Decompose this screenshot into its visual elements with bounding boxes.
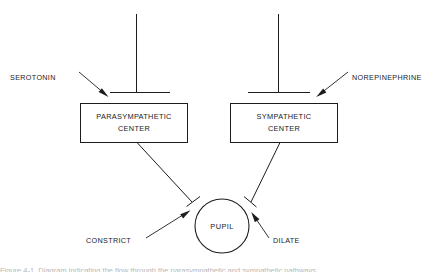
serotonin-arrow-group [79,72,109,97]
sympathetic-center-label-line1: SYMPATHETIC [257,112,312,121]
constrict-label: CONSTRICT [86,236,131,245]
sympathetic-center-box[interactable]: SYMPATHETIC CENTER [231,104,338,143]
norepinephrine-arrow-group [316,72,348,97]
pupil-node[interactable]: PUPIL [195,199,249,253]
constrict-arrow-line [146,213,186,238]
figure-caption: Figure 4-1. Diagram indicating the flow … [0,266,445,272]
parasympathetic-efferent-group [137,143,200,207]
sympathetic-center-label-line2: CENTER [268,124,300,133]
constrict-arrowhead-icon [180,210,190,218]
constrict-arrow-group [146,210,191,238]
norepinephrine-label: NOREPINEPHRINE [352,73,422,82]
dilate-arrowhead-icon [251,212,259,222]
left-afferent-stem-group [110,14,170,93]
right-afferent-stem-group [248,14,310,93]
figure-root: SEROTONIN NOREPINEPHRINE PARASYMPATHETIC… [0,0,445,274]
parasympathetic-center-label-line2: CENTER [118,124,150,133]
parasympathetic-center-box[interactable]: PARASYMPATHETIC CENTER [81,104,188,143]
sympathetic-efferent-line [251,143,280,203]
figure-caption-text: Figure 4-1. Diagram indicating the flow … [0,266,316,272]
sympathetic-efferent-terminal-bar [244,197,257,208]
pupil-control-diagram: SEROTONIN NOREPINEPHRINE PARASYMPATHETIC… [0,0,445,274]
pupil-label: PUPIL [210,222,233,231]
parasympathetic-center-label-line1: PARASYMPATHETIC [96,112,172,121]
serotonin-label: SEROTONIN [10,73,56,82]
sympathetic-efferent-group [244,143,280,208]
parasympathetic-efferent-line [137,143,192,203]
dilate-arrow-group [251,212,269,238]
dilate-label: DILATE [273,236,300,245]
